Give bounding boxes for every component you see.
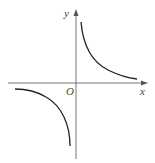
y-axis-label: y — [63, 7, 69, 19]
first-quadrant-branch — [81, 22, 137, 79]
third-quadrant-branch — [15, 89, 70, 146]
origin-label: O — [66, 85, 74, 97]
function-graph: y x O — [0, 0, 155, 163]
x-axis-label: x — [139, 85, 145, 97]
y-axis-arrow-icon — [74, 9, 79, 16]
